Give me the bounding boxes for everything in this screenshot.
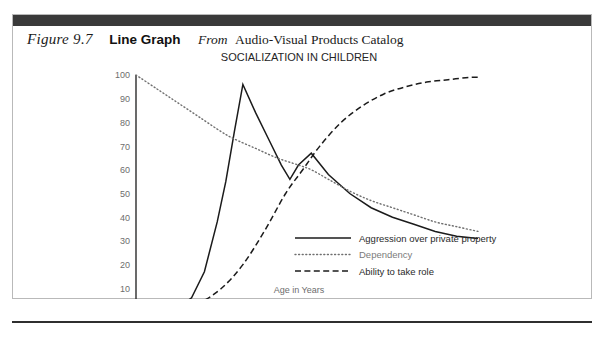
series-line [136, 75, 478, 231]
legend-label: Aggression over private property [359, 233, 497, 244]
y-axis-tick-labels: 0102030405060708090100 [115, 70, 130, 299]
figure-caption: Figure 9.7 Line Graph From Audio-Visual … [27, 28, 404, 50]
line-chart: SOCIALIZATION IN CHILDREN 01020304050607… [13, 49, 593, 299]
chart-title: SOCIALIZATION IN CHILDREN [221, 51, 377, 63]
y-tick-label: 20 [120, 260, 130, 270]
y-tick-label: 10 [120, 284, 130, 294]
y-tick-label: 40 [120, 213, 130, 223]
y-tick-label: 90 [120, 94, 130, 104]
figure-card: Figure 9.7 Line Graph From Audio-Visual … [12, 14, 592, 299]
chart-legend: Aggression over private propertyDependen… [295, 233, 497, 277]
figure-header-band [13, 15, 591, 26]
legend-label: Ability to take role [359, 266, 434, 277]
legend-label: Dependency [359, 249, 413, 260]
y-tick-label: 100 [115, 70, 130, 80]
y-tick-label: 30 [120, 236, 130, 246]
figure-kind: Line Graph [109, 32, 180, 47]
x-axis-title: Age in Years [274, 285, 325, 295]
figure-number: Figure 9.7 [27, 31, 93, 47]
bottom-rule [12, 321, 592, 323]
y-tick-label: 50 [120, 189, 130, 199]
chart-area: SOCIALIZATION IN CHILDREN 01020304050607… [13, 49, 593, 299]
y-tick-label: 60 [120, 165, 130, 175]
figure-source: Audio-Visual Products Catalog [235, 32, 404, 47]
y-tick-label: 70 [120, 142, 130, 152]
figure-from-label: From [198, 32, 228, 47]
y-tick-label: 80 [120, 118, 130, 128]
